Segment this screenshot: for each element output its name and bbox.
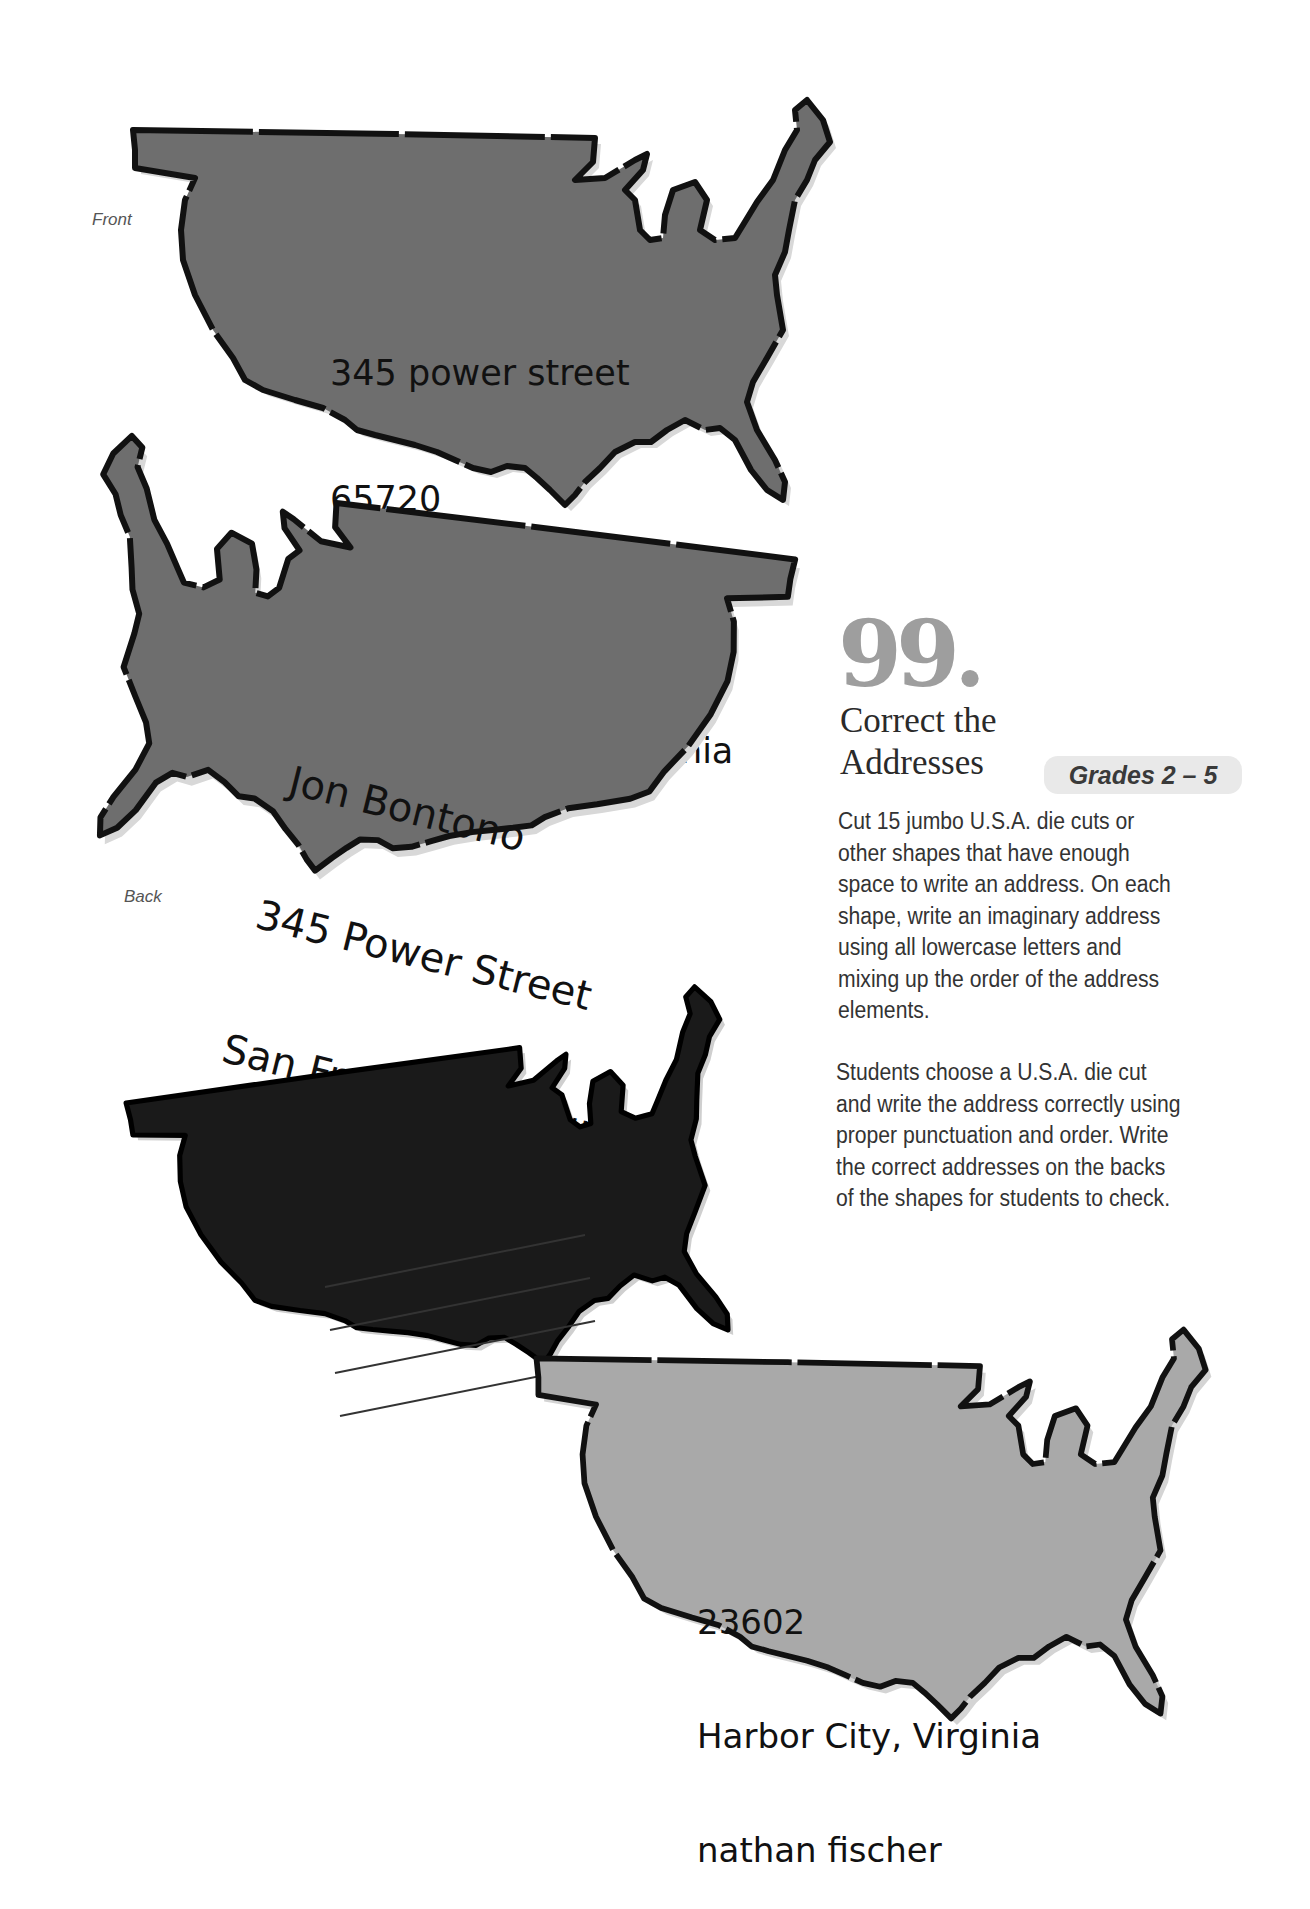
- text-line: Cut 15 jumbo U.S.A. die cuts or: [838, 806, 1171, 838]
- text-line: the correct addresses on the backs: [836, 1152, 1181, 1184]
- address-line: nathan fischer: [697, 1831, 1041, 1869]
- text-line: space to write an address. On each: [838, 869, 1171, 901]
- instructions-paragraph-1: Cut 15 jumbo U.S.A. die cuts or other sh…: [838, 806, 1171, 1027]
- address-line: 23602: [697, 1603, 1041, 1641]
- grades-badge: Grades 2 – 5: [1044, 756, 1242, 794]
- text-line: mixing up the order of the address: [838, 964, 1171, 996]
- activity-title: Correct the Addresses: [840, 700, 996, 784]
- instructions-paragraph-2: Students choose a U.S.A. die cut and wri…: [836, 1057, 1181, 1215]
- back-caption: Back: [124, 887, 162, 907]
- text-line: shape, write an imaginary address: [838, 901, 1171, 933]
- text-line: of the shapes for students to check.: [836, 1183, 1181, 1215]
- text-line: proper punctuation and order. Write: [836, 1120, 1181, 1152]
- address-line: Harbor City, Virginia: [697, 1717, 1041, 1755]
- address-line: 345 power street: [330, 352, 733, 394]
- text-line: elements.: [838, 995, 1171, 1027]
- title-line: Correct the: [840, 700, 996, 742]
- address-line: Jon Bontono: [285, 757, 772, 920]
- text-line: using all lowercase letters and: [838, 932, 1171, 964]
- activity-number: 99.: [838, 608, 980, 700]
- text-line: other shapes that have enough: [838, 838, 1171, 870]
- text-line: and write the address correctly using: [836, 1089, 1181, 1121]
- title-line: Addresses: [840, 742, 996, 784]
- example-address: 23602 Harbor City, Virginia nathan fisch…: [697, 1527, 1041, 1909]
- text-line: Students choose a U.S.A. die cut: [836, 1057, 1181, 1089]
